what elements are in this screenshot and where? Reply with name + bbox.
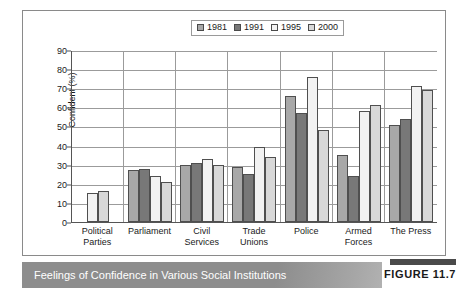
bar-group-armed-forces [333,51,385,222]
bar-group-the-press [385,51,437,222]
bar-group-trade-unions [228,51,280,222]
badge-accent-bar [390,259,456,265]
legend-swatch-1981 [197,24,204,31]
x-axis-label-line: Police [280,226,332,237]
y-tick-label-50: 50 [57,123,67,132]
bar-parliament-1991 [139,169,150,223]
x-axis-label-armed-forces: ArmedForces [332,226,384,248]
plot-area [71,51,437,223]
figure-caption-text: Feelings of Confidence in Various Social… [22,269,286,281]
x-axis-category-labels: PoliticalPartiesParliamentCivilServicesT… [71,226,437,248]
plot-wrapper: Confident (%) 0102030405060708090 [71,51,437,223]
y-tick-label-80: 80 [57,66,67,75]
x-axis-label-police: Police [280,226,332,248]
bar-political-parties-1995 [87,193,98,222]
legend-label-2000: 2000 [318,23,338,32]
bar-group-political-parties [72,51,124,222]
chart-frame: 1981199119952000 Confident (%) 010203040… [22,10,446,256]
x-axis-label-line: Services [176,237,228,248]
bar-the-press-1991 [400,119,411,222]
legend-swatch-2000 [308,24,315,31]
bar-police-1981 [285,96,296,222]
bar-parliament-2000 [161,182,172,222]
bar-civil-services-1981 [180,165,191,222]
bar-political-parties-2000 [98,191,109,222]
x-axis-label-line: Forces [332,237,384,248]
y-tick-label-30: 30 [57,161,67,170]
bar-parliament-1995 [150,176,161,222]
y-axis-tick-labels: 0102030405060708090 [45,51,67,223]
x-axis-label-civil-services: CivilServices [176,226,228,248]
bar-group-parliament [124,51,176,222]
bar-the-press-1995 [411,86,422,222]
bar-police-1991 [296,113,307,222]
bar-police-2000 [318,130,329,222]
bar-trade-unions-1981 [232,167,243,222]
legend-item-1991: 1991 [234,23,264,32]
bar-the-press-2000 [422,90,433,222]
x-axis-label-line: The Press [385,226,437,237]
legend-label-1981: 1981 [207,23,227,32]
bar-the-press-1981 [389,125,400,222]
x-axis-label-the-press: The Press [385,226,437,248]
bar-parliament-1981 [128,170,139,222]
y-tick-label-40: 40 [57,142,67,151]
figure-number-label: FIGURE 11.7 [384,268,464,280]
bar-police-1995 [307,77,318,222]
figure-number-badge: FIGURE 11.7 [382,258,466,290]
bar-armed-forces-2000 [370,105,381,222]
figure-container: 1981199119952000 Confident (%) 010203040… [0,0,466,297]
bar-civil-services-1995 [202,159,213,222]
bar-group-police [281,51,333,222]
chart-legend: 1981199119952000 [191,20,344,36]
bar-trade-unions-1995 [254,147,265,222]
legend-label-1991: 1991 [244,23,264,32]
bar-groups [72,51,437,222]
legend-swatch-1995 [271,24,278,31]
legend-item-1981: 1981 [197,23,227,32]
x-axis-label-line: Unions [228,237,280,248]
legend-swatch-1991 [234,24,241,31]
bar-trade-unions-1991 [243,174,254,222]
x-axis-label-political-parties: PoliticalParties [71,226,123,248]
x-axis-label-trade-unions: TradeUnions [228,226,280,248]
x-axis-label-line: Parties [71,237,123,248]
y-tick-label-20: 20 [57,180,67,189]
x-axis-label-line: Civil [176,226,228,237]
legend-item-1995: 1995 [271,23,301,32]
x-axis-label-line: Armed [332,226,384,237]
x-axis-label-parliament: Parliament [123,226,175,248]
bar-civil-services-1991 [191,163,202,222]
x-axis-label-line: Parliament [123,226,175,237]
x-axis-label-line: Political [71,226,123,237]
y-tick-label-10: 10 [57,199,67,208]
y-tick-label-90: 90 [57,47,67,56]
bar-armed-forces-1991 [348,176,359,222]
bar-armed-forces-1981 [337,155,348,222]
bar-trade-unions-2000 [265,157,276,222]
x-axis-label-line: Trade [228,226,280,237]
bar-armed-forces-1995 [359,111,370,222]
bar-civil-services-2000 [213,165,224,222]
y-tick-label-60: 60 [57,104,67,113]
legend-item-2000: 2000 [308,23,338,32]
legend-label-1995: 1995 [281,23,301,32]
bar-group-civil-services [176,51,228,222]
y-tick-label-70: 70 [57,85,67,94]
